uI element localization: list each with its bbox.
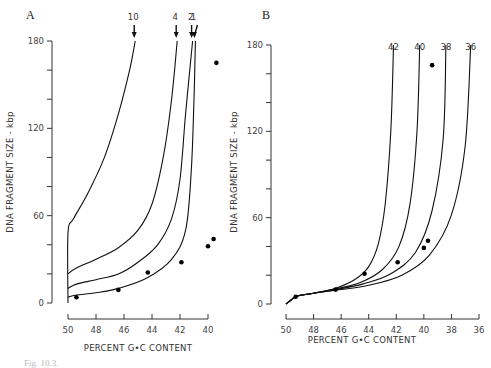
panel-b-x-axis: 5048464442403836 [281,314,485,335]
series-line-40 [286,45,420,304]
panel-a-x-axis: 504846444240 [63,314,214,335]
series-line-1 [68,41,195,297]
x-tick-label: 40 [203,325,214,335]
x-tick-label: 50 [281,325,292,335]
panel-b-y-axis-title: DNA FRAGMENT SIZE - kbp [229,111,239,232]
series-line-36 [286,45,471,304]
data-point [206,244,211,249]
x-tick-label: 42 [391,325,402,335]
data-point [430,63,435,68]
series-arrowhead-10 [132,32,137,38]
x-tick-label: 46 [336,325,347,335]
figure-caption-fragment: Fig. 10.3. [24,358,59,368]
panel-b-y-axis: 060120180 [247,40,271,309]
series-label-42: 42 [388,42,399,52]
data-point [179,260,184,265]
panel-a-y-axis-title: DNA FRAGMENT SIZE - kbp [5,111,15,232]
panel-b-letter: B [262,8,270,22]
x-tick-label: 44 [363,325,374,335]
series-label-1: 1 [191,12,196,22]
series-label-38: 38 [441,42,452,52]
data-point [211,237,216,242]
data-point [362,271,367,276]
panel-b: B 060120180 5048464442403836 DNA FRAGMEN… [229,8,484,345]
figure: A 060120180 504846444240 DNA FRAGMENT SI… [0,0,491,368]
y-tick-label: 180 [247,40,263,50]
x-tick-label: 40 [418,325,429,335]
data-point [293,295,298,300]
y-tick-label: 0 [258,299,263,309]
data-point [395,260,400,265]
series-line-42 [286,45,394,304]
data-point [426,238,431,243]
data-point [116,288,121,293]
series-line-38 [286,45,446,304]
series-line-10 [68,41,136,303]
y-tick-label: 120 [247,126,263,136]
x-tick-label: 48 [91,325,102,335]
y-tick-label: 180 [28,36,44,46]
panel-a-x-axis-title: PERCENT G•C CONTENT [84,343,193,353]
panel-b-x-axis-title: PERCENT G•C CONTENT [308,335,417,345]
y-tick-label: 60 [252,213,263,223]
series-label-4: 4 [172,12,177,22]
y-tick-label: 60 [33,211,44,221]
series-label-36: 36 [465,42,476,52]
data-point [74,295,79,300]
data-point [214,61,219,66]
panel-a-curves: 10421 [68,12,198,303]
x-tick-label: 50 [63,325,74,335]
x-tick-label: 48 [308,325,319,335]
panel-a: A 060120180 504846444240 DNA FRAGMENT SI… [5,8,219,353]
series-line-4 [68,41,177,274]
panel-b-curves: 42403836 [286,42,476,304]
x-tick-label: 36 [474,325,485,335]
y-tick-label: 120 [28,123,44,133]
data-point [422,246,427,251]
data-point [146,270,151,275]
x-tick-label: 42 [175,325,186,335]
panel-a-points [74,61,219,300]
x-tick-label: 44 [147,325,158,335]
series-label-40: 40 [414,42,425,52]
panel-a-letter: A [26,8,35,22]
series-arrowhead-4 [174,32,179,38]
y-tick-label: 0 [39,298,44,308]
x-tick-label: 38 [446,325,457,335]
panel-a-y-axis: 060120180 [28,36,52,308]
series-label-10: 10 [128,12,139,22]
data-point [333,287,338,292]
x-tick-label: 46 [119,325,130,335]
